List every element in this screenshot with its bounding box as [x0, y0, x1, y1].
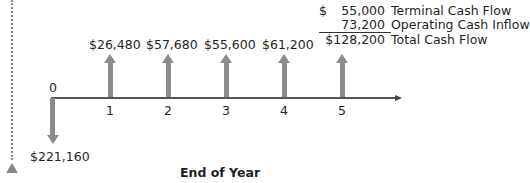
cash-flow-label-year-3: $55,600: [204, 37, 256, 52]
year-tick-5: 5: [338, 103, 346, 118]
breakdown-row-total: $128,200 Total Cash Flow: [319, 33, 530, 47]
cash-flow-label-year-1: $26,480: [89, 37, 141, 52]
breakdown-desc: Terminal Cash Flow: [391, 4, 511, 18]
arrow-down-icon: [47, 135, 59, 144]
year-tick-2: 2: [164, 103, 172, 118]
breakdown-amount: $128,200: [319, 33, 391, 47]
year-tick-4: 4: [280, 103, 288, 118]
breakdown-row-operating: 73,200 Operating Cash Inflow: [319, 18, 530, 33]
breakdown-desc: Operating Cash Inflow: [391, 18, 530, 33]
year-tick-3: 3: [222, 103, 230, 118]
x-axis-label: End of Year: [180, 165, 260, 180]
year-tick-0: 0: [49, 80, 57, 95]
year-tick-1: 1: [106, 103, 114, 118]
triangle-marker-icon: [6, 163, 18, 173]
timeline-axis: [51, 97, 397, 99]
cash-flow-label-year-4: $61,200: [262, 37, 314, 52]
breakdown-amount: 55,000: [341, 4, 385, 18]
axis-arrow-icon: [395, 95, 402, 101]
currency-symbol: $: [319, 4, 327, 18]
dotted-vertical-line: [11, 0, 13, 160]
year5-breakdown: $ 55,000 Terminal Cash Flow 73,200 Opera…: [319, 4, 530, 47]
cash-flow-label-year-0: $221,160: [30, 149, 90, 164]
breakdown-amount: 73,200: [319, 18, 391, 33]
breakdown-desc: Total Cash Flow: [391, 33, 488, 47]
breakdown-row-terminal: $ 55,000 Terminal Cash Flow: [319, 4, 530, 18]
cash-flow-label-year-2: $57,680: [146, 37, 198, 52]
